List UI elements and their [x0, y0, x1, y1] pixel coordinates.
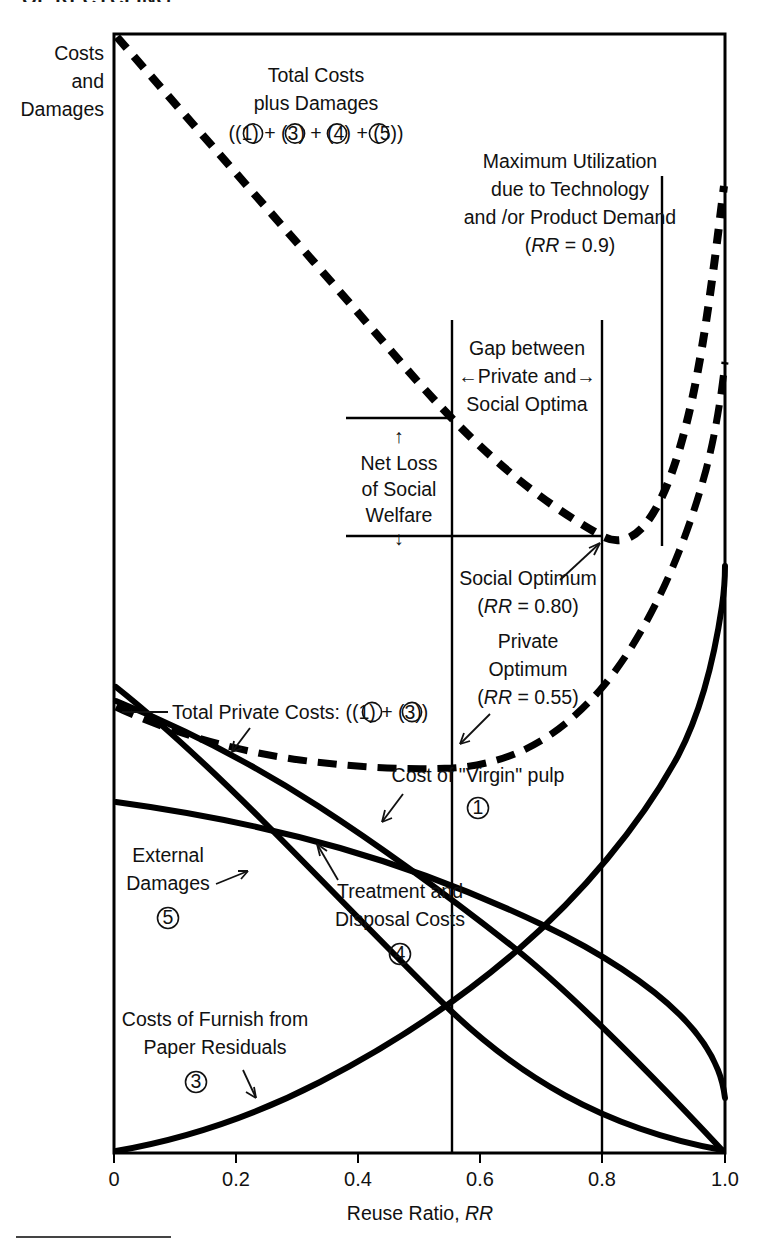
gap-arrow-right-icon: →	[576, 365, 596, 387]
virgin-pulp-line-1: Cost of "Virgin" pulp	[392, 764, 565, 786]
external-damages-line-2: Damages	[126, 872, 210, 894]
private-optimum-line-2: Optimum	[488, 658, 567, 680]
y-axis-label-line-3: Damages	[21, 98, 105, 120]
total-private-text: Total Private Costs: ((1) + (3))	[172, 701, 428, 723]
label-social-optimum: Social Optimum (RR = 0.80)	[459, 543, 600, 617]
external-damages-num: 5	[163, 906, 174, 928]
max-util-line-1: Maximum Utilization	[483, 150, 657, 172]
treatment-line-2: Disposal Costs	[335, 908, 465, 930]
virgin-pulp-leader	[382, 794, 403, 822]
net-loss-line-2: of Social	[362, 478, 437, 500]
x-tick-2: 0.4	[344, 1168, 372, 1190]
label-gap-between-optima: Gap between ←Private and→ Social Optima	[458, 337, 596, 415]
gap-line-3: Social Optima	[466, 393, 588, 415]
x-axis-tick-labels: 0 0.2 0.4 0.6 0.8 1.0	[108, 1168, 738, 1190]
furnish-line-2: Paper Residuals	[143, 1036, 286, 1058]
furnish-num: 3	[191, 1070, 202, 1092]
treatment-line-1: Treatment and	[337, 880, 463, 902]
label-virgin-pulp: Cost of "Virgin" pulp 1	[382, 764, 565, 822]
x-tick-5: 1.0	[711, 1168, 739, 1190]
label-furnish-paper-residuals: Costs of Furnish from Paper Residuals 3	[122, 1008, 308, 1098]
label-external-damages: External Damages 5	[126, 844, 248, 929]
x-axis-title: Reuse Ratio, RR	[347, 1202, 493, 1224]
private-optimum-line-3: (RR = 0.55)	[477, 686, 578, 708]
total-costs-formula: ((1) + (3) + (4) + (5))	[228, 122, 403, 144]
gap-line-1: Gap between	[469, 337, 585, 359]
gap-arrow-left-icon: ←	[458, 365, 478, 387]
label-net-loss-social-welfare: ↑ Net Loss of Social Welfare ↓	[361, 425, 438, 549]
social-optimum-line-1: Social Optimum	[459, 567, 597, 589]
furnish-line-1: Costs of Furnish from	[122, 1008, 308, 1030]
private-optimum-leader	[460, 714, 490, 744]
plot-frame	[114, 34, 725, 1153]
max-util-line-2: due to Technology	[491, 178, 649, 200]
max-util-line-3: and /or Product Demand	[464, 206, 676, 228]
total-costs-line-1: Total Costs	[268, 64, 365, 86]
net-loss-line-3: Welfare	[366, 504, 433, 526]
max-util-line-4: (RR = 0.9)	[525, 234, 616, 256]
treatment-num: 4	[395, 942, 406, 964]
y-axis-label: Costs and Damages	[21, 42, 105, 120]
net-loss-arrow-up-icon: ↑	[394, 425, 404, 447]
x-tick-1: 0.2	[222, 1168, 250, 1190]
y-axis-label-line-1: Costs	[54, 42, 104, 64]
x-axis-title-prefix: Reuse Ratio,	[347, 1202, 465, 1224]
recycling-cost-chart: Costs and Damages 0 0.2 0.4 0.6 0.8 1.0 …	[0, 0, 778, 1247]
net-loss-arrow-down-icon: ↓	[394, 527, 404, 549]
x-tick-4: 0.8	[588, 1168, 616, 1190]
figure-page: OF RECYCLING	[0, 0, 778, 1247]
label-total-costs-plus-damages: Total Costs plus Damages ((1) + (3) + (4…	[228, 64, 403, 144]
y-axis-label-line-2: and	[71, 70, 104, 92]
x-axis-title-italic: RR	[465, 1202, 493, 1224]
social-optimum-line-2: (RR = 0.80)	[477, 595, 578, 617]
total-costs-line-2: plus Damages	[254, 92, 379, 114]
virgin-pulp-num: 1	[473, 796, 484, 818]
net-loss-line-1: Net Loss	[361, 452, 438, 474]
external-damages-line-1: External	[132, 844, 204, 866]
x-tick-0: 0	[108, 1168, 119, 1190]
gap-line-2: ←Private and→	[458, 365, 596, 387]
label-maximum-utilization: Maximum Utilization due to Technology an…	[464, 150, 676, 256]
curve-furnish-paper-residuals	[116, 566, 725, 1151]
private-optimum-line-1: Private	[498, 630, 559, 652]
x-tick-3: 0.6	[466, 1168, 494, 1190]
